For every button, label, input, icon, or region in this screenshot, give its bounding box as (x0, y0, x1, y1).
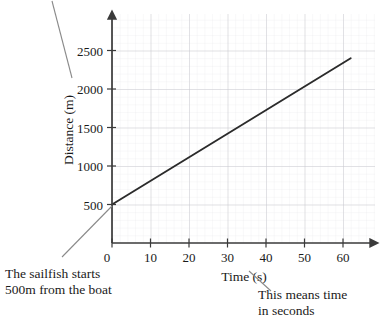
time-note-line-2: in seconds (258, 303, 315, 318)
y-tick-label-2500: 2500 (77, 44, 103, 59)
leader-line-y-axis-note (52, 1, 72, 78)
x-tick-label-0: 0 (104, 250, 111, 265)
distance-time-graph-figure: 500 1000 1500 2000 2500 0 10 20 30 40 50… (0, 0, 383, 320)
plot-grid (112, 14, 375, 243)
x-tick-label-60: 60 (337, 250, 350, 265)
annotation-start-note: The sailfish starts 500m from the boat (5, 266, 112, 297)
chart-svg: 500 1000 1500 2000 2500 0 10 20 30 40 50… (0, 0, 383, 320)
y-tick-label-1500: 1500 (77, 121, 103, 136)
y-tick-label-1000: 1000 (77, 159, 103, 174)
x-axis-tick-labels: 0 10 20 30 40 50 60 (104, 250, 350, 265)
y-axis-tick-labels: 500 1000 1500 2000 2500 (77, 44, 103, 213)
x-tick-label-20: 20 (183, 250, 196, 265)
annotation-time-note: This means time in seconds (258, 287, 347, 318)
x-axis-title: Time (s) (221, 269, 267, 284)
y-tick-label-2000: 2000 (77, 82, 103, 97)
x-tick-label-30: 30 (221, 250, 234, 265)
y-tick-label-500: 500 (84, 198, 104, 213)
time-note-line-1: This means time (258, 287, 347, 302)
y-axis-title: Distance (m) (61, 95, 76, 165)
x-tick-label-50: 50 (298, 250, 311, 265)
start-note-line-1: The sailfish starts (5, 266, 100, 281)
x-tick-label-40: 40 (260, 250, 273, 265)
start-note-line-2: 500m from the boat (5, 282, 112, 297)
x-tick-label-10: 10 (144, 250, 157, 265)
